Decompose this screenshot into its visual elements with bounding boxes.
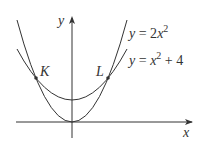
point-l-label: L <box>95 64 104 79</box>
point-l <box>106 76 110 80</box>
point-k-label: K <box>39 64 50 79</box>
parabola-diagram: K L y x y = 2x2 y = x2 + 4 <box>0 0 201 144</box>
equation-2x2: y = 2x2 <box>127 23 168 41</box>
equation-x2-plus-4: y = x2 + 4 <box>127 50 183 68</box>
point-k <box>34 76 38 80</box>
y-axis-label: y <box>56 13 65 28</box>
x-axis-label: x <box>182 125 190 140</box>
